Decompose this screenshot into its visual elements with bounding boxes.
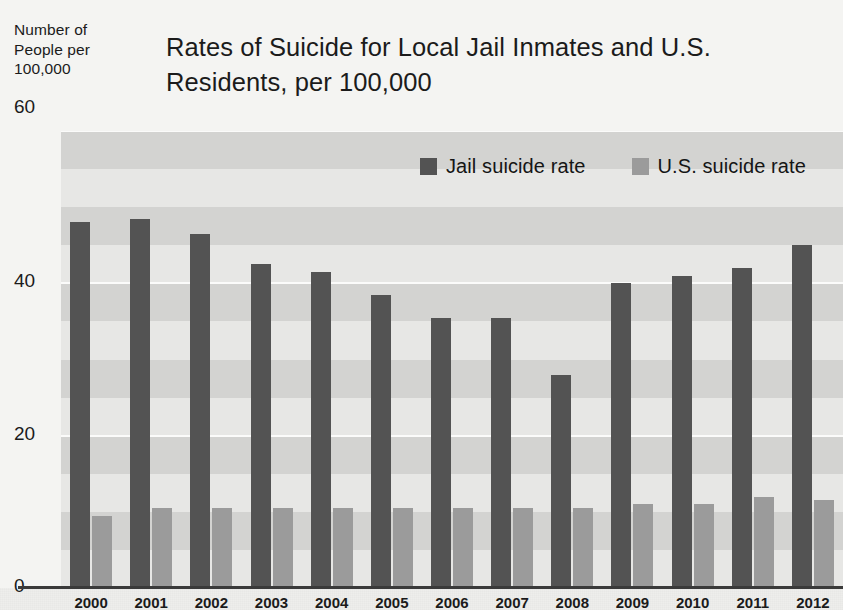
chart-figure: Number of People per 100,000 60 Rates of…	[0, 0, 843, 610]
bar-us	[393, 508, 413, 588]
bar-us	[212, 508, 232, 588]
bar-jail	[551, 375, 571, 588]
bar-jail	[672, 276, 692, 588]
bar-group	[482, 131, 542, 588]
x-axis-label: 2004	[315, 594, 348, 610]
legend-swatch-us-icon	[632, 158, 649, 175]
bar-group	[663, 131, 723, 588]
bar-jail	[732, 268, 752, 588]
bar-us	[573, 508, 593, 588]
bar-group	[422, 131, 482, 588]
bar-us	[513, 508, 533, 588]
bar-us	[273, 508, 293, 588]
x-axis-label: 2003	[255, 594, 288, 610]
bar-group	[783, 131, 843, 588]
bar-group	[723, 131, 783, 588]
x-axis-label: 2011	[736, 594, 769, 610]
bar-group	[602, 131, 662, 588]
x-axis-label: 2000	[74, 594, 107, 610]
x-axis-baseline	[18, 586, 843, 589]
bar-jail	[251, 264, 271, 588]
y-axis-gutter	[0, 131, 61, 588]
bar-us	[92, 516, 112, 588]
x-axis-label: 2006	[435, 594, 468, 610]
bar-us	[633, 504, 653, 588]
x-axis-label: 2007	[495, 594, 528, 610]
legend-label-us: U.S. suicide rate	[658, 155, 806, 178]
bar-group	[241, 131, 301, 588]
legend-item-us: U.S. suicide rate	[632, 155, 806, 178]
bar-group	[121, 131, 181, 588]
bar-jail	[130, 219, 150, 588]
y-axis-tick-60: 60	[14, 96, 35, 118]
bar-group	[302, 131, 362, 588]
bar-us	[694, 504, 714, 588]
bar-us	[453, 508, 473, 588]
x-axis-label: 2010	[676, 594, 709, 610]
y-axis-caption: Number of People per 100,000	[14, 20, 134, 79]
bar-group	[61, 131, 121, 588]
x-axis-label: 2009	[616, 594, 649, 610]
legend-item-jail: Jail suicide rate	[420, 155, 586, 178]
x-axis-label: 2001	[135, 594, 168, 610]
y-axis-tick-20: 20	[14, 423, 35, 445]
x-axis-label: 2008	[556, 594, 589, 610]
bar-jail	[611, 283, 631, 588]
bar-us	[333, 508, 353, 588]
bar-jail	[70, 222, 90, 588]
bar-jail	[371, 295, 391, 588]
bar-jail	[311, 272, 331, 588]
bar-group	[362, 131, 422, 588]
bar-jail	[190, 234, 210, 588]
bar-jail	[491, 318, 511, 588]
chart-legend: Jail suicide rate U.S. suicide rate	[420, 155, 806, 178]
bars-layer	[61, 131, 843, 588]
y-axis-tick-40: 40	[14, 270, 35, 292]
x-axis-label-layer: 2000200120022003200420052006200720082009…	[61, 594, 843, 610]
x-axis-label: 2005	[375, 594, 408, 610]
chart-title: Rates of Suicide for Local Jail Inmates …	[166, 30, 806, 100]
bar-group	[181, 131, 241, 588]
bar-jail	[431, 318, 451, 588]
bar-us	[814, 500, 834, 588]
x-axis-label: 2002	[195, 594, 228, 610]
legend-label-jail: Jail suicide rate	[446, 155, 586, 178]
bar-jail	[792, 245, 812, 588]
bar-us	[152, 508, 172, 588]
x-axis-label: 2012	[796, 594, 829, 610]
legend-swatch-jail-icon	[420, 158, 437, 175]
bar-us	[754, 497, 774, 588]
bar-group	[542, 131, 602, 588]
